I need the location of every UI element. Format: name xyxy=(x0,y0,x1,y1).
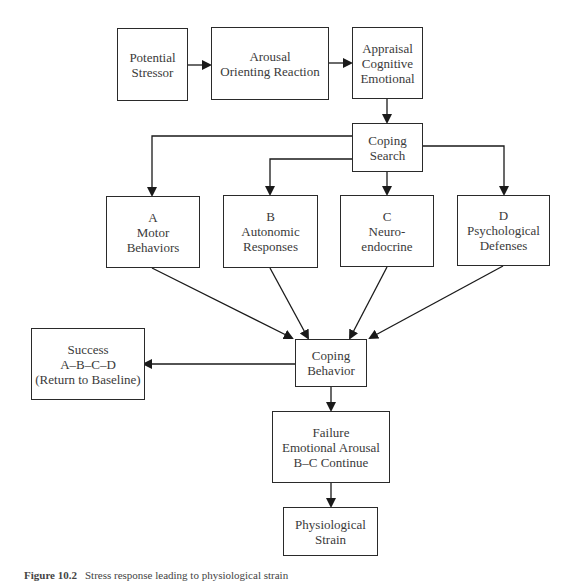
node-text: Autonomic xyxy=(241,224,300,239)
node-text: Potential xyxy=(129,50,175,65)
node-appraisal: Appraisal Cognitive Emotional xyxy=(352,27,423,99)
node-failure: Failure Emotional Arousal B–C Continue xyxy=(272,411,390,483)
node-text: Motor xyxy=(137,225,170,240)
node-text: Arousal xyxy=(249,49,290,64)
node-text: A xyxy=(148,210,157,225)
node-success: Success A–B–C–D (Return to Baseline) xyxy=(31,328,145,400)
node-text: Behavior xyxy=(307,363,355,378)
node-text: Cognitive xyxy=(362,56,413,71)
edge-motor-behavior xyxy=(152,268,292,338)
edge-neuroendocrine-behavior xyxy=(350,267,387,338)
node-text: Neuro- xyxy=(369,224,406,239)
node-text: Search xyxy=(370,148,405,163)
node-motor-behaviors: A Motor Behaviors xyxy=(106,196,200,268)
caption-label: Figure 10.2 xyxy=(24,569,77,581)
node-coping-behavior: Coping Behavior xyxy=(295,339,367,387)
node-text: Appraisal xyxy=(362,41,413,56)
edge-search-autonomic xyxy=(270,159,352,194)
node-text: Stressor xyxy=(132,65,174,80)
node-text: C xyxy=(383,209,392,224)
node-text: Strain xyxy=(315,532,346,547)
figure-caption: Figure 10.2Stress response leading to ph… xyxy=(24,569,288,581)
caption-text: Stress response leading to physiological… xyxy=(85,569,288,581)
edge-psychological-behavior xyxy=(370,266,503,338)
node-psychological-defenses: D Psychological Defenses xyxy=(457,195,550,266)
node-text: A–B–C–D xyxy=(60,357,116,372)
node-text: B xyxy=(266,209,275,224)
edge-search-motor xyxy=(152,136,352,195)
node-arousal: Arousal Orienting Reaction xyxy=(211,27,329,100)
node-autonomic-responses: B Autonomic Responses xyxy=(223,195,318,268)
node-text: Defenses xyxy=(480,238,528,253)
node-physiological-strain: Physiological Strain xyxy=(283,507,378,556)
node-potential-stressor: Potential Stressor xyxy=(117,28,188,101)
node-text: Emotional xyxy=(360,71,414,86)
node-neuroendocrine: C Neuro- endocrine xyxy=(340,195,434,267)
node-text: (Return to Baseline) xyxy=(35,372,140,387)
node-text: B–C Continue xyxy=(294,455,369,470)
node-text: D xyxy=(499,208,508,223)
edge-autonomic-behavior xyxy=(270,268,308,338)
node-text: endocrine xyxy=(361,239,412,254)
node-coping-search: Coping Search xyxy=(352,123,423,172)
node-text: Coping xyxy=(368,133,406,148)
edge-search-psychological xyxy=(423,146,504,194)
node-text: Emotional Arousal xyxy=(282,440,380,455)
node-text: Coping xyxy=(312,348,350,363)
node-text: Failure xyxy=(313,425,350,440)
node-text: Physiological xyxy=(295,517,366,532)
node-text: Orienting Reaction xyxy=(220,64,319,79)
node-text: Responses xyxy=(243,239,298,254)
node-text: Psychological xyxy=(467,223,540,238)
node-text: Success xyxy=(67,342,108,357)
node-text: Behaviors xyxy=(127,240,180,255)
